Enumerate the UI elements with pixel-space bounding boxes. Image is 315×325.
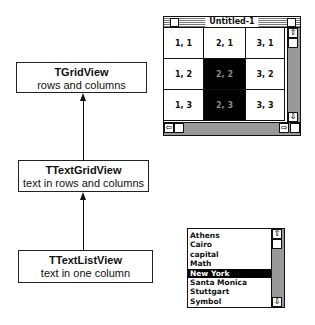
list-item[interactable]: capital (188, 250, 272, 259)
class-description: rows and columns (17, 79, 146, 92)
close-box-icon[interactable] (170, 18, 179, 27)
grid-cell[interactable]: 3, 3 (246, 90, 285, 121)
title-bar[interactable]: Untitled-1 (164, 17, 300, 28)
window-title: Untitled-1 (205, 17, 258, 27)
list-item[interactable]: Math (188, 259, 272, 268)
grid-cell[interactable]: 1, 3 (164, 90, 204, 121)
scroll-left-arrow-icon[interactable]: ⇦ (164, 123, 174, 133)
class-name: TGridView (17, 66, 146, 79)
list-item[interactable]: Santa Monica (188, 278, 272, 287)
horizontal-scrollbar[interactable]: ⇦ ⇨ (164, 122, 300, 135)
list-item[interactable]: Symbol (188, 297, 272, 306)
scroll-up-arrow-icon[interactable]: ⇧ (272, 229, 282, 239)
arrow-head-icon (80, 93, 86, 101)
scroll-thumb[interactable] (288, 38, 298, 48)
list-item[interactable]: Athens (188, 231, 272, 240)
grid-cell[interactable]: 3, 2 (246, 59, 285, 90)
grid-cell[interactable]: 3, 1 (246, 28, 285, 59)
class-name: TTextGridView (19, 164, 148, 177)
vertical-scrollbar[interactable]: ⇧ ⇩ (287, 28, 300, 122)
grid-window: Untitled-1 1, 12, 13, 11, 22, 23, 21, 32… (163, 16, 301, 136)
scroll-down-arrow-icon[interactable]: ⇩ (272, 297, 282, 307)
grid-cell[interactable]: 1, 2 (164, 59, 204, 90)
class-name: TTextListView (19, 254, 152, 267)
grow-box-icon[interactable] (290, 123, 300, 133)
scroll-thumb[interactable] (174, 123, 184, 133)
inheritance-arrow-line (83, 101, 84, 160)
scroll-up-arrow-icon[interactable]: ⇧ (288, 28, 298, 38)
class-box-ttextlistview: TTextListView text in one column (18, 250, 153, 283)
text-grid[interactable]: 1, 12, 13, 11, 22, 23, 21, 32, 33, 3 (164, 28, 285, 122)
grid-cell[interactable]: 2, 2 (204, 59, 246, 90)
grid-cell[interactable]: 2, 1 (204, 28, 246, 59)
class-box-tgridview: TGridView rows and columns (16, 62, 147, 93)
class-description: text in rows and columns (19, 177, 148, 190)
scroll-right-arrow-icon[interactable]: ⇨ (279, 123, 289, 133)
scroll-thumb[interactable] (272, 239, 282, 249)
list-item[interactable]: New York (188, 269, 272, 278)
zoom-box-icon[interactable] (287, 18, 296, 27)
list-item[interactable]: Cairo (188, 240, 272, 249)
class-description: text in one column (19, 267, 152, 280)
class-box-ttextgridview: TTextGridView text in rows and columns (18, 160, 149, 192)
inheritance-arrow-line (83, 200, 84, 250)
scroll-down-arrow-icon[interactable]: ⇩ (288, 112, 298, 122)
arrow-head-icon (80, 192, 86, 200)
vertical-scrollbar[interactable]: ⇧ ⇩ (271, 229, 284, 307)
grid-cell[interactable]: 1, 1 (164, 28, 204, 59)
grid-cell[interactable]: 2, 3 (204, 90, 246, 121)
list-item[interactable]: Stuttgart (188, 287, 272, 296)
text-list-view: AthensCairocapitalMathNew YorkSanta Moni… (187, 228, 285, 308)
